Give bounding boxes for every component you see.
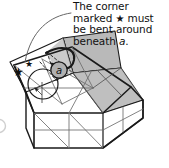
- caption-trailing-punctuation: .: [125, 35, 128, 47]
- star-icon: ★: [115, 13, 124, 24]
- star-marker-outer: ★: [13, 65, 24, 79]
- box-front-face: [34, 113, 103, 148]
- origami-instruction-figure: a ★ ★ The corner marked ★ must be bent a…: [0, 0, 169, 168]
- partial-circle-edge: [0, 120, 6, 133]
- star-marker-inner: ★: [25, 59, 33, 69]
- caption-text: The corner marked ★ must be bent around …: [73, 1, 169, 47]
- circled-a-label-text: a: [56, 65, 62, 76]
